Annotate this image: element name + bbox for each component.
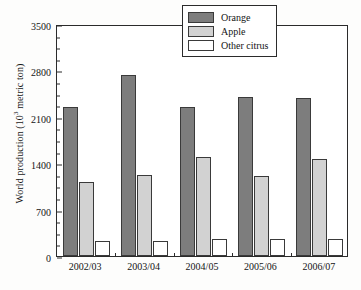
x-axis-minor-tick-mark [291, 253, 292, 256]
legend-swatch-icon [188, 40, 214, 51]
bar-orange-2003-04 [121, 75, 136, 256]
y-axis-minor-tick-mark [57, 130, 60, 131]
bar-chart-figure: World production (103 metric ton) 070014… [0, 0, 361, 290]
x-axis-tick-label: 2005/06 [244, 261, 277, 272]
bar-other-citrus-2002-03 [95, 241, 110, 256]
chart-legend: OrangeAppleOther citrus [182, 5, 277, 57]
y-axis-title-exponent: 3 [12, 111, 20, 115]
y-axis-minor-tick-mark [57, 142, 60, 143]
plot-area: 07001400210028003500 [56, 25, 348, 257]
bar-apple-2003-04 [137, 175, 152, 256]
y-axis-minor-tick-mark [57, 246, 60, 247]
y-axis-tick-mark [57, 211, 62, 212]
bar-apple-2004-05 [196, 157, 211, 256]
legend-label: Other citrus [221, 40, 269, 51]
x-axis-tick-label: 2003/04 [127, 261, 160, 272]
y-axis-tick-label: 2800 [31, 67, 57, 78]
bar-other-citrus-2004-05 [212, 239, 227, 256]
y-axis-tick-mark [57, 26, 62, 27]
bar-other-citrus-2003-04 [153, 241, 168, 256]
bar-apple-2005-06 [254, 176, 269, 256]
x-axis-minor-tick-mark [174, 253, 175, 256]
x-axis-tick-label: 2004/05 [186, 261, 219, 272]
x-axis-minor-tick-mark [115, 253, 116, 256]
legend-item-other-citrus: Other citrus [188, 38, 269, 52]
y-axis-minor-tick-mark [57, 37, 60, 38]
y-axis-minor-tick-mark [57, 234, 60, 235]
bar-orange-2005-06 [238, 97, 253, 256]
y-axis-tick-mark [57, 258, 62, 259]
y-axis-title-tail: metric ton) [14, 64, 25, 112]
legend-item-orange: Orange [188, 10, 269, 24]
y-axis-title: World production (103 metric ton) [14, 29, 25, 239]
y-axis-minor-tick-mark [57, 223, 60, 224]
x-axis-tick-label: 2006/07 [302, 261, 335, 272]
legend-swatch-icon [188, 12, 214, 23]
legend-swatch-icon [188, 26, 214, 37]
y-axis-tick-mark [57, 118, 62, 119]
bar-orange-2002-03 [63, 107, 78, 256]
y-axis-tick-label: 0 [46, 253, 57, 264]
y-axis-tick-label: 2100 [31, 113, 57, 124]
y-axis-minor-tick-mark [57, 95, 60, 96]
legend-label: Apple [221, 26, 245, 37]
y-axis-minor-tick-mark [57, 107, 60, 108]
bar-apple-2006-07 [312, 159, 327, 256]
x-axis-minor-tick-mark [232, 253, 233, 256]
y-axis-minor-tick-mark [57, 84, 60, 85]
y-axis-minor-tick-mark [57, 153, 60, 154]
y-axis-minor-tick-mark [57, 60, 60, 61]
y-axis-title-main: World production (10 [14, 115, 25, 203]
bar-apple-2002-03 [79, 182, 94, 256]
legend-item-apple: Apple [188, 24, 269, 38]
y-axis-minor-tick-mark [57, 176, 60, 177]
bar-other-citrus-2006-07 [328, 239, 343, 256]
bar-other-citrus-2005-06 [270, 239, 285, 256]
y-axis-tick-label: 1400 [31, 160, 57, 171]
y-axis-tick-label: 700 [36, 206, 57, 217]
y-axis-minor-tick-mark [57, 49, 60, 50]
bar-orange-2006-07 [296, 98, 311, 256]
y-axis-tick-mark [57, 72, 62, 73]
y-axis-tick-label: 3500 [31, 21, 57, 32]
y-axis-minor-tick-mark [57, 188, 60, 189]
bar-orange-2004-05 [180, 107, 195, 256]
x-axis-tick-label: 2002/03 [69, 261, 102, 272]
y-axis-minor-tick-mark [57, 200, 60, 201]
legend-label: Orange [221, 12, 250, 23]
y-axis-tick-mark [57, 165, 62, 166]
